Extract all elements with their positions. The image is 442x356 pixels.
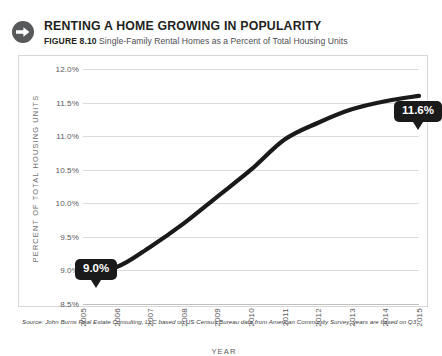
y-axis-title: PERCENT OF TOTAL HOUSING UNITS <box>31 79 40 279</box>
y-axis-label: 11.0% <box>56 132 79 141</box>
y-axis-label: 12.0% <box>56 65 79 74</box>
line-series-single-family-rental <box>83 69 419 304</box>
page-title: RENTING A HOME GROWING IN POPULARITY <box>44 19 322 33</box>
series-line <box>83 96 419 271</box>
figure-description: Single-Family Rental Homes as a Percent … <box>99 36 347 46</box>
x-axis-line <box>83 304 419 305</box>
x-axis-ticks: 2005200620072008200920102011201220132014… <box>83 308 419 342</box>
figure-subtitle: FIGURE 8.10 Single-Family Rental Homes a… <box>44 36 348 46</box>
callout-end-pointer <box>413 122 423 130</box>
y-axis-ticks: 12.0%11.5%11.0%10.5%10.0%9.5%9.0%8.5% <box>19 69 79 304</box>
y-axis-label: 9.5% <box>60 232 79 241</box>
figure-header: RENTING A HOME GROWING IN POPULARITY FIG… <box>0 10 439 50</box>
figure-number: FIGURE 8.10 <box>44 36 97 46</box>
callout-end-value: 11.6% <box>394 101 442 122</box>
callout-start-pointer <box>91 280 101 288</box>
callout-start-value: 9.0% <box>75 259 117 280</box>
arrow-right-circle-icon <box>12 21 34 43</box>
chart-frame: 12.0%11.5%11.0%10.5%10.0%9.5%9.0%8.5% PE… <box>18 55 428 307</box>
x-axis-title: YEAR <box>19 347 429 356</box>
y-axis-label: 10.5% <box>56 165 79 174</box>
callout-start-label: 9.0% <box>75 259 117 280</box>
source-note: Source: John Burns Real Estate Consultin… <box>22 318 432 325</box>
y-axis-label: 11.5% <box>56 98 79 107</box>
y-axis-label: 8.5% <box>60 300 79 309</box>
y-axis-label: 10.0% <box>56 199 79 208</box>
plot-area <box>83 69 419 304</box>
callout-end-label: 11.6% <box>394 101 442 122</box>
